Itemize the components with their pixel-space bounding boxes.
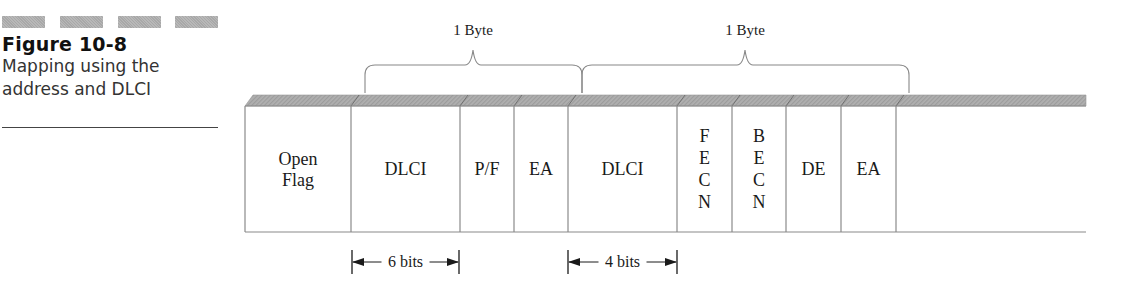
field-label: B	[753, 126, 765, 146]
frame-relay-header-diagram: OpenFlagDLCIP/FEADLCIFECNBECNDEEA 1 Byte…	[0, 0, 1129, 300]
field-ea-2: EA	[841, 106, 881, 232]
field-dlci-1: DLCI	[351, 106, 427, 232]
byte-label: 1 Byte	[453, 22, 493, 38]
field-label: DE	[802, 159, 826, 179]
frame-top-band	[245, 95, 1086, 106]
byte-brace-1: 1 Byte	[365, 22, 582, 93]
field-dlci-2: DLCI	[568, 106, 644, 232]
field-label: E	[699, 148, 710, 168]
byte-label: 1 Byte	[725, 22, 765, 38]
field-de: DE	[786, 106, 826, 232]
bit-span-arrows: 6 bits4 bits	[352, 250, 677, 274]
bits-label: 4 bits	[605, 253, 640, 270]
bit-span-2: 4 bits	[568, 250, 677, 274]
field-label: DLCI	[385, 159, 427, 179]
field-label: F	[699, 126, 709, 146]
byte-braces: 1 Byte1 Byte	[365, 22, 909, 93]
field-label: DLCI	[602, 159, 644, 179]
field-label: Open	[279, 149, 318, 169]
field-pf: P/F	[460, 106, 500, 232]
frame-fields: OpenFlagDLCIP/FEADLCIFECNBECNDEEA	[245, 106, 1086, 232]
field-becn: BECN	[732, 106, 766, 232]
field-fecn: FECN	[677, 106, 711, 232]
field-label: N	[753, 192, 766, 212]
field-label: N	[698, 192, 711, 212]
field-open-flag: OpenFlag	[279, 149, 318, 190]
field-ea-1: EA	[514, 106, 553, 232]
field-label: EA	[857, 159, 881, 179]
byte-brace-2: 1 Byte	[582, 22, 909, 93]
field-label: P/F	[474, 159, 499, 179]
field-label: Flag	[282, 170, 314, 190]
field-label: E	[754, 148, 765, 168]
field-label: C	[753, 170, 765, 190]
bit-span-1: 6 bits	[352, 250, 459, 274]
field-label: C	[698, 170, 710, 190]
bits-label: 6 bits	[388, 253, 423, 270]
field-label: EA	[529, 159, 553, 179]
